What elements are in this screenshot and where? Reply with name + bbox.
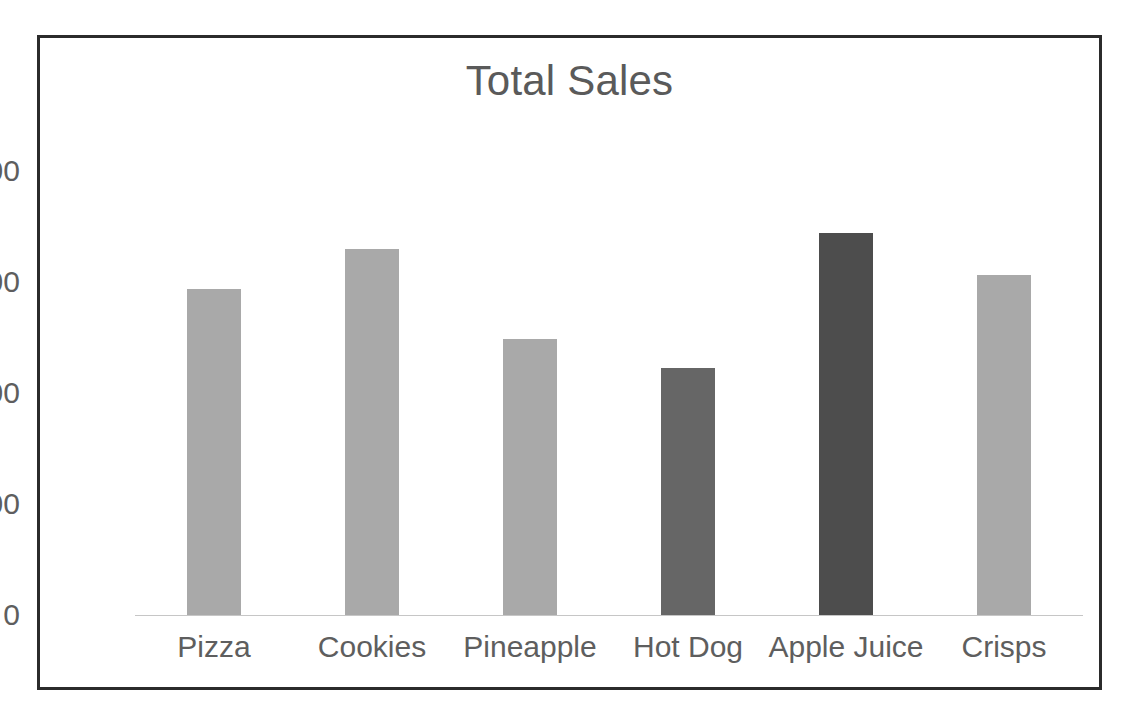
y-axis-tick-label: 600 [0, 265, 20, 299]
bar-apple-juice[interactable] [819, 233, 873, 615]
chart-title: Total Sales [40, 58, 1099, 104]
chart-canvas: Total Sales 0200400600800 PizzaCookiesPi… [40, 38, 1099, 687]
bar-slot [609, 171, 767, 615]
bar-slot [925, 171, 1083, 615]
plot-area [135, 171, 1083, 615]
x-axis-tick-label: Crisps [925, 630, 1083, 664]
chart-frame: Total Sales 0200400600800 PizzaCookiesPi… [37, 35, 1102, 690]
x-axis-tick-label: Hot Dog [609, 630, 767, 664]
x-axis-tick-label: Pizza [135, 630, 293, 664]
bar-crisps[interactable] [977, 275, 1031, 615]
x-axis-tick-label: Pineapple [451, 630, 609, 664]
y-axis-tick-label: 400 [0, 376, 20, 410]
x-axis-line [135, 615, 1083, 616]
bar-cookies[interactable] [345, 249, 399, 615]
bar-pizza[interactable] [187, 289, 241, 615]
x-axis: PizzaCookiesPineappleHot DogApple JuiceC… [135, 630, 1083, 680]
y-axis-tick-label: 200 [0, 487, 20, 521]
x-axis-tick-label: Apple Juice [767, 630, 925, 664]
bar-slot [293, 171, 451, 615]
bar-hot-dog[interactable] [661, 368, 715, 615]
y-axis: 0200400600800 [0, 171, 20, 615]
bar-slot [135, 171, 293, 615]
bar-slot [451, 171, 609, 615]
y-axis-tick-label: 0 [0, 598, 20, 632]
bar-pineapple[interactable] [503, 339, 557, 615]
x-axis-tick-label: Cookies [293, 630, 451, 664]
y-axis-tick-label: 800 [0, 154, 20, 188]
bar-slot [767, 171, 925, 615]
